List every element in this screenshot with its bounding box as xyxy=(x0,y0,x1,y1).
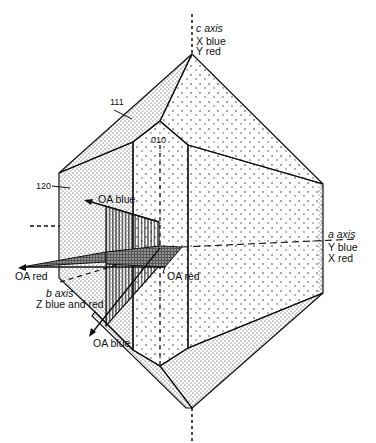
c-axis-label: c axis xyxy=(196,23,223,34)
oa-red-right-label: OA red xyxy=(167,271,200,282)
a-axis-label: a axis xyxy=(328,229,355,240)
oa-blue-lower-label: OA blue xyxy=(93,338,130,349)
crystal-diagram xyxy=(0,0,376,443)
c-axis-y: Y red xyxy=(196,46,221,57)
face-111-label: 111 xyxy=(110,97,124,108)
a-axis-x: X red xyxy=(328,253,353,264)
face-010-label: 010 xyxy=(151,135,166,146)
oa-blue-upper-label: OA blue xyxy=(98,194,135,205)
b-axis-z: Z blue and red xyxy=(36,299,104,310)
oa-red-left-label: OA red xyxy=(15,271,48,282)
face-120-label: 120 xyxy=(36,181,51,192)
